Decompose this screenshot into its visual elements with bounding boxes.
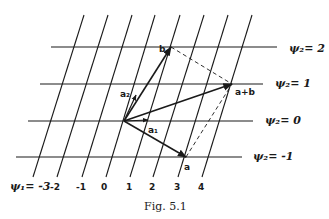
psi1-tick-2: 2 [149,182,155,192]
figure-caption: Fig. 5.1 [144,200,187,213]
psi2-label-1: ψ₂= 1 [275,77,311,90]
psi1-tick-4: 4 [198,182,204,192]
psi1-tick-0: 0 [101,182,107,192]
label-b: b [159,44,166,54]
psi1-line-minus2 [57,15,108,177]
psi1-line-minus3 [33,15,84,177]
psi1-tick-1: 1 [126,182,132,192]
psi1-line-1 [130,15,180,177]
dashed-b-to-sum [171,47,232,84]
psi1-label-minus3: ψ₁= -3 [10,180,51,193]
psi2-label-0: ψ₂= 0 [265,114,301,127]
psi1-tick-minus1: -1 [76,182,86,192]
label-a-plus-b: a+b [235,87,256,97]
psi2-label-minus1: ψ₂= -1 [253,150,293,163]
psi1-line-3 [178,15,228,177]
psi1-tick-3: 3 [174,182,180,192]
psi2-label-2: ψ₂= 2 [289,42,325,55]
psi1-tick-minus2: -2 [50,182,60,192]
vector-grid-diagram: b a+b a₂ a₁ a ψ₂= 2 ψ₂= 1 ψ₂= 0 ψ₂= -1 ψ… [0,0,329,219]
label-a2: a₂ [120,89,130,99]
label-a1: a₁ [148,125,158,135]
psi2-gridlines [16,47,277,157]
psi1-gridlines [33,15,252,177]
vector-a-plus-b [124,84,232,121]
psi1-line-0 [106,15,155,177]
label-a: a [184,162,190,172]
